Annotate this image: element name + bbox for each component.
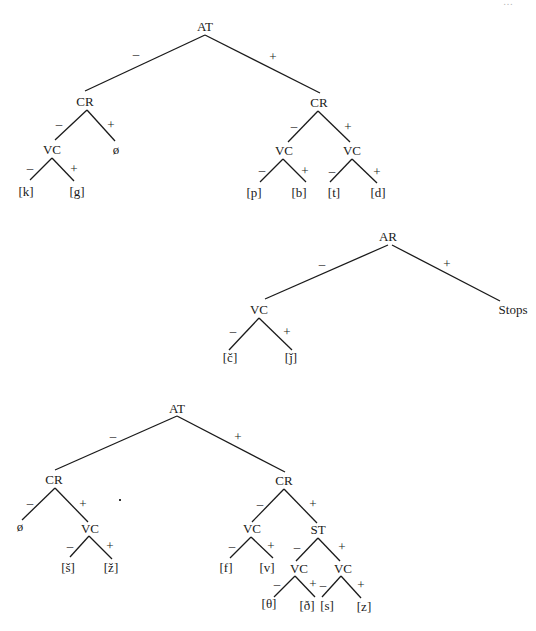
tree-node-t3-vc-4: VC [334, 561, 352, 576]
tree-3: –+–+–+–+–+–+–+–+ATCRCRøVC[š][ž]VCST[f][v… [17, 401, 371, 614]
tree-node-t3-vc-1: VC [81, 521, 99, 536]
plus-sign-label: + [283, 324, 290, 339]
tree-node-t2-j: [ǰ] [285, 350, 297, 365]
tree-node-t2-stops: Stops [499, 302, 528, 317]
tree-node-t2-ar: AR [379, 229, 397, 244]
tree-node-t3-at: AT [169, 401, 185, 416]
tree-node-t3-eth: [ð] [299, 598, 314, 613]
minus-sign-label: – [328, 163, 336, 178]
tree-node-t1-cr-plus: CR [310, 95, 328, 110]
plus-sign-label: + [309, 496, 316, 511]
tree-2: –+–+ARVCStops[č][ǰ] [223, 229, 528, 365]
tree-node-t3-f: [f] [220, 560, 233, 575]
tree-branch [205, 35, 320, 93]
tree-node-t2-c: [č] [223, 350, 237, 365]
minus-sign-label: – [109, 428, 117, 443]
tree-node-t3-zh: [ž] [104, 560, 118, 575]
plus-sign-label: + [373, 164, 380, 179]
plus-sign-label: + [443, 256, 450, 271]
minus-sign-label: – [293, 539, 301, 554]
tree-node-t1-cr-minus: CR [76, 94, 94, 109]
minus-sign-label: – [132, 46, 140, 61]
tree-node-t1-k: [k] [18, 184, 33, 199]
tree-node-t1-null: ø [113, 142, 120, 157]
tree-node-t1-d: [d] [370, 185, 385, 200]
tree-branch [265, 245, 388, 299]
minus-sign-label: – [228, 538, 236, 553]
tree-node-t3-null: ø [17, 519, 24, 534]
tree-node-t3-sh: [š] [61, 560, 75, 575]
plus-sign-label: + [357, 577, 364, 592]
minus-sign-label: – [26, 160, 34, 175]
minus-sign-label: – [318, 256, 326, 271]
tree-node-t3-theta: [θ] [262, 596, 277, 611]
minus-sign-label: – [290, 118, 298, 133]
minus-sign-label: – [66, 538, 74, 553]
tree-branch [392, 245, 500, 301]
tree-node-t1-vc-3: VC [343, 143, 361, 158]
tree-branch [177, 416, 285, 472]
minus-sign-label: – [258, 162, 266, 177]
tree-branch [30, 158, 52, 180]
tree-node-t2-vc: VC [250, 302, 268, 317]
minus-sign-label: – [273, 576, 281, 591]
tree-branch [85, 35, 205, 91]
tree-node-t1-p: [p] [246, 185, 261, 200]
minus-sign-label: – [26, 495, 34, 510]
tree-branch [318, 538, 340, 561]
plus-sign-label: + [79, 496, 86, 511]
plus-sign-label: + [106, 538, 113, 553]
tree-node-t3-z: [z] [357, 599, 371, 614]
plus-sign-label: + [70, 161, 77, 176]
plus-sign-label: + [107, 117, 114, 132]
plus-sign-label: + [234, 429, 241, 444]
tree-node-t3-cr-minus: CR [45, 472, 63, 487]
minus-sign-label: – [55, 116, 63, 131]
tree-node-t3-vc-3: VC [290, 561, 308, 576]
tree-node-t3-v: [v] [259, 560, 274, 575]
tree-node-t1-at: AT [197, 19, 213, 34]
page-number-fragment: … [503, 0, 513, 7]
minus-sign-label: – [229, 323, 237, 338]
stray-print-mark [119, 499, 121, 501]
tree-node-t3-s: [s] [320, 598, 334, 613]
tree-node-t1-vc-1: VC [43, 142, 61, 157]
plus-sign-label: + [301, 163, 308, 178]
plus-sign-label: + [309, 576, 316, 591]
plus-sign-label: + [338, 539, 345, 554]
plus-sign-label: + [269, 49, 276, 64]
plus-sign-label: + [267, 538, 274, 553]
tree-branch [55, 416, 177, 470]
minus-sign-label: – [256, 496, 264, 511]
tree-1: –+–+–+–+–+–+ATCRCRVCø[k][g]VCVC[p][b][t]… [18, 19, 385, 200]
plus-sign-label: + [344, 119, 351, 134]
tree-node-t1-g: [g] [69, 184, 84, 199]
feature-tree-diagram: … –+–+–+–+–+–+ATCRCRVCø[k][g]VCVC[p][b][… [0, 0, 536, 631]
tree-node-t3-cr-plus: CR [275, 473, 293, 488]
tree-node-t1-vc-2: VC [275, 143, 293, 158]
minus-sign-label: – [319, 577, 327, 592]
tree-node-t1-t: [t] [328, 185, 340, 200]
tree-group: –+–+–+–+–+–+ATCRCRVCø[k][g]VCVC[p][b][t]… [17, 19, 528, 614]
tree-node-t3-vc-2: VC [243, 521, 261, 536]
tree-node-t3-st: ST [310, 522, 325, 537]
tree-node-t1-b: [b] [291, 185, 306, 200]
